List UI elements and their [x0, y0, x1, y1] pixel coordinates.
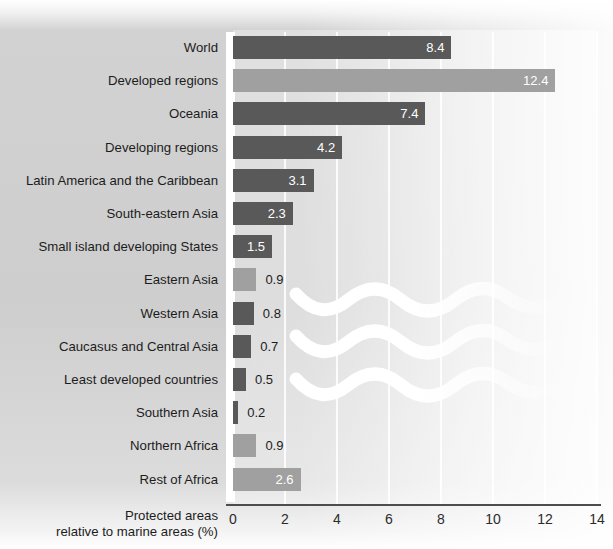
chart-row: Developing regions4.2 — [0, 136, 613, 169]
category-label: Least developed countries — [8, 368, 218, 391]
bar[interactable] — [233, 434, 256, 457]
bar[interactable]: 8.4 — [233, 36, 451, 59]
bar-value-label: 8.4 — [426, 36, 444, 59]
chart-row: Northern Africa0.9 — [0, 434, 613, 467]
bar[interactable]: 3.1 — [233, 169, 314, 192]
x-tick-label-0: 0 — [229, 511, 237, 527]
category-label: Developed regions — [8, 69, 218, 92]
chart-row: Small island developing States1.5 — [0, 235, 613, 268]
bar-value-label: 7.4 — [400, 102, 418, 125]
category-label: Latin America and the Caribbean — [8, 169, 218, 192]
x-axis-line — [226, 504, 601, 506]
category-label: Eastern Asia — [8, 268, 218, 291]
x-tick-label-10: 10 — [485, 511, 501, 527]
bar[interactable] — [233, 368, 246, 391]
bar-value-label: 0.7 — [260, 335, 278, 358]
bar-value-label: 0.8 — [263, 302, 281, 325]
bar[interactable]: 2.3 — [233, 202, 293, 225]
x-tick-label-14: 14 — [589, 511, 605, 527]
bar-value-label: 4.2 — [317, 136, 335, 159]
category-label: World — [8, 36, 218, 59]
x-tick-label-2: 2 — [281, 511, 289, 527]
bar-value-label: 0.9 — [265, 268, 283, 291]
bar-value-label: 2.3 — [268, 202, 286, 225]
chart-row: World8.4 — [0, 36, 613, 69]
chart-row: Oceania7.4 — [0, 102, 613, 135]
category-label: Northern Africa — [8, 434, 218, 457]
chart-row: Developed regions12.4 — [0, 69, 613, 102]
x-tick-label-4: 4 — [333, 511, 341, 527]
x-axis-title: Protected areas relative to marine areas… — [8, 508, 218, 540]
bar[interactable]: 4.2 — [233, 136, 342, 159]
chart-row: Eastern Asia0.9 — [0, 268, 613, 301]
category-label: Oceania — [8, 102, 218, 125]
category-label: Rest of Africa — [8, 468, 218, 491]
chart-row: Least developed countries0.5 — [0, 368, 613, 401]
category-label: Small island developing States — [8, 235, 218, 258]
bar[interactable]: 2.6 — [233, 468, 301, 491]
bar[interactable] — [233, 401, 238, 424]
chart-row: Western Asia0.8 — [0, 302, 613, 335]
chart-row: Caucasus and Central Asia0.7 — [0, 335, 613, 368]
bar-value-label: 2.6 — [276, 468, 294, 491]
chart-row: Latin America and the Caribbean3.1 — [0, 169, 613, 202]
bar-value-label: 1.5 — [247, 235, 265, 258]
bar-value-label: 3.1 — [289, 169, 307, 192]
bar-value-label: 0.9 — [265, 434, 283, 457]
bar[interactable] — [233, 335, 251, 358]
category-label: Developing regions — [8, 136, 218, 159]
bar[interactable] — [233, 302, 254, 325]
chart-row: Rest of Africa2.6 — [0, 468, 613, 501]
bar[interactable]: 7.4 — [233, 102, 425, 125]
category-label: Southern Asia — [8, 401, 218, 424]
chart-row: South-eastern Asia2.3 — [0, 202, 613, 235]
bar-value-label: 12.4 — [523, 69, 548, 92]
bar[interactable]: 1.5 — [233, 235, 272, 258]
bar-value-label: 0.5 — [255, 368, 273, 391]
chart-row: Southern Asia0.2 — [0, 401, 613, 434]
category-label: South-eastern Asia — [8, 202, 218, 225]
axis-title-line-1: Protected areas — [8, 508, 218, 524]
bar[interactable] — [233, 268, 256, 291]
category-label: Western Asia — [8, 302, 218, 325]
bar-chart: World8.4Developed regions12.4Oceania7.4D… — [0, 0, 613, 549]
axis-title-line-2: relative to marine areas (%) — [8, 524, 218, 540]
category-label: Caucasus and Central Asia — [8, 335, 218, 358]
x-tick-label-12: 12 — [537, 511, 553, 527]
bar-value-label: 0.2 — [247, 401, 265, 424]
x-tick-label-8: 8 — [437, 511, 445, 527]
x-tick-label-6: 6 — [385, 511, 393, 527]
bar[interactable]: 12.4 — [233, 69, 555, 92]
